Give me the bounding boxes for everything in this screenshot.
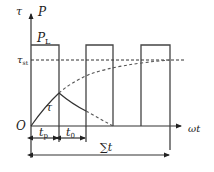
cooling-curve-extension <box>86 111 113 126</box>
pulse-level-label: PL <box>36 31 51 46</box>
heating-curve-extension <box>59 60 170 93</box>
off-time-label: t0 <box>66 126 75 140</box>
total-time-label: ∑t <box>100 141 113 154</box>
y-axis-label-power: P <box>37 5 47 19</box>
pulse-3 <box>141 45 170 150</box>
y-axis-label-tau: τ <box>16 5 23 18</box>
heating-curve <box>31 93 59 126</box>
pulse-timing-diagram: τ P O ωt PL τst τ tp t0 ∑t <box>0 0 214 172</box>
steady-temperature-label: τst <box>17 54 29 66</box>
pulse-2 <box>86 45 113 126</box>
pulse-1 <box>31 45 59 126</box>
pulse-width-label: tp <box>39 126 48 140</box>
temperature-curve-label: τ <box>46 101 53 114</box>
x-axis-label: ωt <box>188 123 201 134</box>
origin-label: O <box>16 119 26 133</box>
cooling-curve <box>59 93 86 111</box>
